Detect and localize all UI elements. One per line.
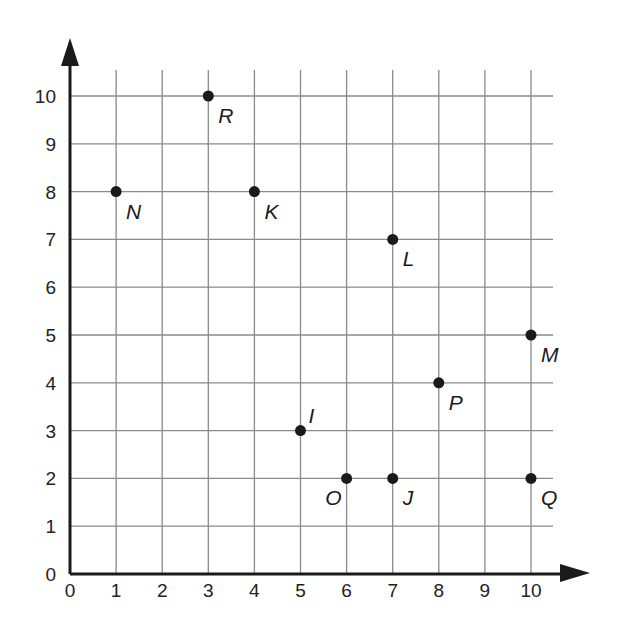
- point-marker-icon: [526, 330, 537, 341]
- point-label: Q: [541, 486, 557, 509]
- point-label: K: [264, 200, 279, 223]
- y-tick-label: 7: [45, 229, 56, 250]
- point-marker-icon: [526, 473, 537, 484]
- x-tick-label: 8: [434, 580, 445, 601]
- y-tick-label: 1: [45, 516, 56, 537]
- point-marker-icon: [295, 425, 306, 436]
- y-tick-label: 3: [45, 421, 56, 442]
- x-tick-label: 4: [249, 580, 260, 601]
- y-axis-arrow-icon: [61, 38, 79, 66]
- point-label: I: [309, 404, 315, 427]
- point-label: L: [403, 247, 415, 270]
- x-axis-arrow-icon: [560, 564, 590, 582]
- x-tick-label: 3: [203, 580, 214, 601]
- point-marker-icon: [387, 234, 398, 245]
- x-tick-label: 9: [480, 580, 491, 601]
- y-tick-label: 8: [45, 182, 56, 203]
- x-tick-label: 0: [65, 580, 76, 601]
- x-tick-labels: 012345678910: [65, 580, 542, 601]
- y-tick-label: 2: [45, 468, 56, 489]
- point-label: J: [402, 486, 414, 509]
- coordinate-grid-chart: 012345678910 012345678910 RNKLMPIOJQ: [0, 0, 618, 637]
- y-tick-label: 10: [35, 86, 56, 107]
- point-marker-icon: [111, 186, 122, 197]
- y-tick-label: 0: [45, 564, 56, 585]
- y-tick-label: 9: [45, 134, 56, 155]
- x-tick-label: 1: [111, 580, 122, 601]
- data-points: RNKLMPIOJQ: [111, 91, 559, 510]
- x-tick-label: 6: [341, 580, 352, 601]
- point-label: N: [126, 200, 142, 223]
- point-marker-icon: [341, 473, 352, 484]
- point-label: M: [541, 343, 559, 366]
- x-tick-label: 7: [387, 580, 398, 601]
- point-label: R: [218, 104, 233, 127]
- x-tick-label: 10: [520, 580, 541, 601]
- point-label: P: [449, 391, 463, 414]
- grid-lines: [70, 70, 553, 574]
- y-tick-labels: 012345678910: [35, 86, 57, 585]
- point-marker-icon: [433, 377, 444, 388]
- point-marker-icon: [203, 91, 214, 102]
- point-marker-icon: [249, 186, 260, 197]
- point-label: O: [325, 486, 341, 509]
- x-tick-label: 2: [157, 580, 168, 601]
- y-tick-label: 5: [45, 325, 56, 346]
- y-tick-label: 6: [45, 277, 56, 298]
- x-tick-label: 5: [295, 580, 306, 601]
- y-tick-label: 4: [45, 373, 56, 394]
- point-marker-icon: [387, 473, 398, 484]
